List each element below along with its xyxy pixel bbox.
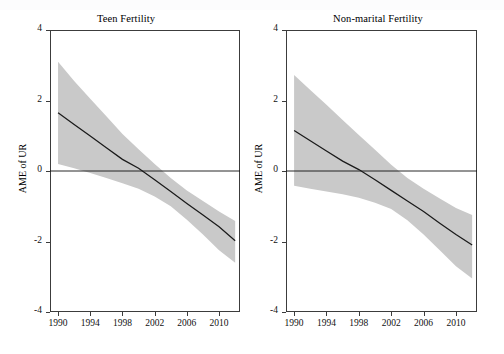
x-tick-mark: [326, 312, 327, 316]
panel-title-non-marital-fertility: Non-marital Fertility: [252, 13, 504, 24]
y-tick-mark: [46, 312, 50, 313]
plot-svg-non-marital: [286, 30, 477, 312]
y-tick-mark: [46, 171, 50, 172]
x-tick-mark: [187, 312, 188, 316]
plot-area-non-marital: [286, 30, 477, 312]
panel-non-marital-fertility: Non-marital Fertility AME of UR 420-2-4 …: [252, 0, 504, 354]
y-tick-mark: [46, 30, 50, 31]
y-tick-label: -2: [256, 235, 278, 245]
plot-svg-teen: [50, 30, 240, 312]
y-tick-mark: [46, 101, 50, 102]
y-tick-mark: [282, 242, 286, 243]
x-tick-mark: [90, 312, 91, 316]
confidence-band: [58, 62, 235, 263]
y-tick-label: 0: [20, 164, 42, 174]
x-tick-mark: [391, 312, 392, 316]
x-tick-mark: [58, 312, 59, 316]
x-tick-mark: [359, 312, 360, 316]
y-tick-label: 0: [256, 164, 278, 174]
x-tick-mark: [219, 312, 220, 316]
plot-area-teen: [50, 30, 240, 312]
y-tick-label: 2: [20, 94, 42, 104]
y-tick-label: 2: [256, 94, 278, 104]
y-tick-label: -4: [256, 305, 278, 315]
x-tick-mark: [424, 312, 425, 316]
x-tick-mark: [294, 312, 295, 316]
y-tick-mark: [46, 242, 50, 243]
x-tick-mark: [122, 312, 123, 316]
figure-two-panel-ame-plot: Teen Fertility AME of UR 420-2-4 1990199…: [0, 0, 504, 354]
y-tick-mark: [282, 30, 286, 31]
panel-teen-fertility: Teen Fertility AME of UR 420-2-4 1990199…: [0, 0, 252, 354]
confidence-band: [294, 75, 472, 278]
y-tick-label: -2: [20, 235, 42, 245]
y-tick-mark: [282, 171, 286, 172]
x-tick-mark: [456, 312, 457, 316]
y-tick-mark: [282, 312, 286, 313]
x-tick-label: 2010: [199, 318, 239, 328]
y-tick-label: 4: [20, 23, 42, 33]
y-tick-mark: [282, 101, 286, 102]
x-tick-mark: [155, 312, 156, 316]
y-tick-label: -4: [20, 305, 42, 315]
y-tick-label: 4: [256, 23, 278, 33]
x-tick-label: 2010: [436, 318, 476, 328]
